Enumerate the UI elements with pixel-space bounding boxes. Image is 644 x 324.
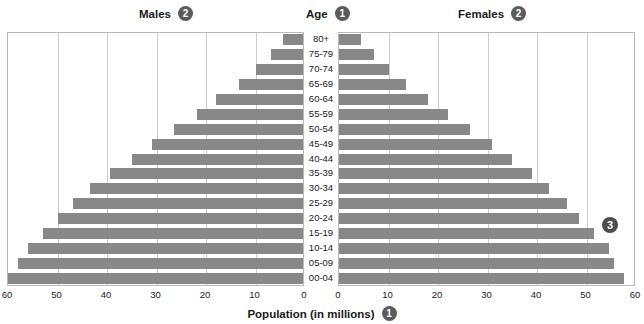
- bar-females-60-64: [339, 94, 428, 105]
- bar-row: [339, 257, 634, 271]
- bar-row: [8, 182, 303, 196]
- axis-title-row: Population (in millions) 1: [0, 306, 644, 321]
- age-label-40-44: 40-44: [304, 152, 338, 166]
- bar-females-55-59: [339, 109, 448, 120]
- bar-row: [339, 197, 634, 211]
- bar-males-25-29: [73, 198, 303, 209]
- axis-tick-0: 0: [335, 289, 340, 300]
- axis-tick-50: 50: [580, 289, 591, 300]
- axis-title: Population (in millions): [247, 308, 374, 320]
- males-badge: 2: [178, 6, 193, 21]
- age-label-05-09: 05-09: [304, 256, 338, 270]
- bar-males-15-19: [43, 228, 303, 239]
- males-plot-area: [7, 32, 304, 286]
- bar-females-45-49: [339, 139, 492, 150]
- age-header: Age 1: [306, 6, 350, 21]
- bar-females-40-44: [339, 154, 512, 165]
- bar-males-55-59: [197, 109, 303, 120]
- bar-row: [339, 108, 634, 122]
- bar-row: [8, 78, 303, 92]
- bar-row: [8, 138, 303, 152]
- bar-females-35-39: [339, 168, 532, 179]
- axis-tick-0: 0: [301, 289, 306, 300]
- bar-row: [8, 93, 303, 107]
- bar-row: [8, 33, 303, 47]
- females-axis-ticks: 0102030405060: [338, 289, 635, 305]
- bar-males-70-74: [256, 64, 303, 75]
- age-label-60-64: 60-64: [304, 92, 338, 106]
- axis-tick-10: 10: [382, 289, 393, 300]
- females-plot-area: [338, 32, 635, 286]
- bar-males-20-24: [58, 213, 303, 224]
- bar-row: [8, 272, 303, 286]
- bar-females-50-54: [339, 124, 470, 135]
- males-header: Males 2: [139, 6, 193, 21]
- bar-males-05-09: [18, 258, 303, 269]
- females-bars: [339, 33, 634, 285]
- bar-row: [339, 167, 634, 181]
- males-label: Males: [139, 8, 171, 20]
- bar-males-30-34: [90, 183, 303, 194]
- bar-row: [339, 63, 634, 77]
- axis-tick-50: 50: [51, 289, 62, 300]
- bar-females-05-09: [339, 258, 614, 269]
- bar-row: [8, 123, 303, 137]
- bar-males-50-54: [174, 124, 303, 135]
- age-label-55-59: 55-59: [304, 107, 338, 121]
- bar-row: [339, 48, 634, 62]
- bar-females-65-69: [339, 79, 406, 90]
- chart-header: Males 2 Age 1 Females 2: [0, 0, 644, 28]
- age-badge: 1: [335, 6, 350, 21]
- age-label-20-24: 20-24: [304, 211, 338, 225]
- age-label-30-34: 30-34: [304, 181, 338, 195]
- axis-tick-20: 20: [200, 289, 211, 300]
- bar-females-75-79: [339, 49, 374, 60]
- bar-row: [8, 153, 303, 167]
- bar-row: [8, 48, 303, 62]
- age-label-column: 80+75-7970-7465-6960-6455-5950-5445-4940…: [304, 32, 338, 286]
- females-label: Females: [458, 8, 504, 20]
- age-label-45-49: 45-49: [304, 137, 338, 151]
- axis-tick-30: 30: [481, 289, 492, 300]
- bar-females-80+: [339, 34, 361, 45]
- age-label-25-29: 25-29: [304, 196, 338, 210]
- population-pyramid-chart: Males 2 Age 1 Females 2 80+75-7970-7465-…: [0, 0, 644, 324]
- bar-row: [339, 242, 634, 256]
- bar-males-10-14: [28, 243, 303, 254]
- age-label-75-79: 75-79: [304, 47, 338, 61]
- age-label: Age: [306, 8, 328, 20]
- bar-females-25-29: [339, 198, 567, 209]
- age-label-00-04: 00-04: [304, 271, 338, 285]
- bar-row: [339, 153, 634, 167]
- bar-males-80+: [283, 34, 303, 45]
- axis-tick-40: 40: [101, 289, 112, 300]
- bar-females-30-34: [339, 183, 549, 194]
- bar-females-00-04: [339, 273, 624, 284]
- bar-males-35-39: [110, 168, 303, 179]
- females-badge: 2: [511, 6, 526, 21]
- bar-row: [339, 227, 634, 241]
- axis-title-badge: 1: [382, 306, 397, 321]
- age-label-50-54: 50-54: [304, 122, 338, 136]
- age-label-80+: 80+: [304, 32, 338, 46]
- axis-tick-60: 60: [2, 289, 13, 300]
- age-label-15-19: 15-19: [304, 226, 338, 240]
- bar-row: [339, 182, 634, 196]
- bar-row: [8, 167, 303, 181]
- bar-row: [8, 212, 303, 226]
- bar-row: [339, 33, 634, 47]
- annotation-badge-3: 3: [602, 217, 618, 233]
- bar-females-20-24: [339, 213, 579, 224]
- males-bars: [8, 33, 303, 285]
- bar-row: [8, 257, 303, 271]
- males-axis-ticks: 6050403020100: [7, 289, 304, 305]
- bar-males-60-64: [216, 94, 303, 105]
- bar-males-75-79: [271, 49, 303, 60]
- age-label-65-69: 65-69: [304, 77, 338, 91]
- axis-tick-30: 30: [150, 289, 161, 300]
- age-label-10-14: 10-14: [304, 241, 338, 255]
- bar-row: [339, 123, 634, 137]
- bar-row: [339, 212, 634, 226]
- bar-males-45-49: [152, 139, 303, 150]
- axis-tick-60: 60: [630, 289, 641, 300]
